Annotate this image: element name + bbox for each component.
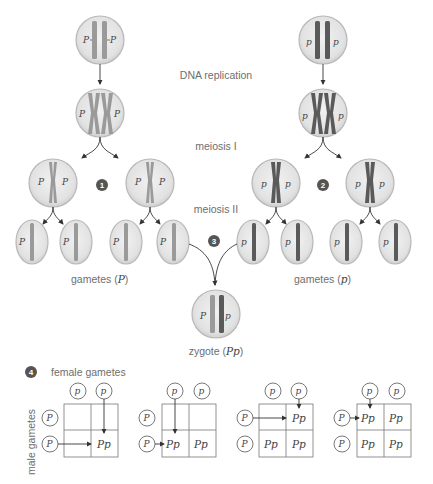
fertilization-arrow [189,244,215,285]
svg-text:p: p [379,179,385,189]
svg-text:p: p [302,111,308,121]
step-badge-4: 4 [25,366,37,378]
arrow-split [276,207,286,224]
punnett-square-1: p p P P Pp [42,383,118,457]
allele-label: P [61,177,69,187]
zygote-label: zygote (Pp) [189,345,244,357]
allele-label: P [78,109,86,119]
meiosis1-cell-P-right: P P [126,159,174,207]
svg-text:Pp: Pp [291,412,306,424]
arrow-split [140,207,150,224]
arrow-split [323,137,341,158]
fertilization-arrow [215,244,237,285]
arrow-split [266,207,276,224]
svg-text:Pp: Pp [360,412,375,424]
dna-replication-label: DNA replication [180,69,253,81]
svg-text:p: p [101,386,107,396]
meiosis-2-label: meiosis II [194,203,238,215]
gamete-p: p [237,220,269,264]
step-badge-3: 3 [208,235,220,247]
allele-label: P [158,177,166,187]
svg-text:p: p [285,237,291,247]
gamete-P: P [110,220,142,264]
svg-text:P: P [241,413,249,423]
svg-text:p: p [306,37,312,47]
allele-label: P [134,177,142,187]
svg-text:P: P [338,413,346,423]
gamete-P: P [60,220,92,264]
meiosis-1-label: meiosis I [195,140,236,152]
meiosis1-cell-p-left: p p [252,159,300,207]
punnett-square-2: p p P P Pp Pp [139,383,216,457]
replicated-cell-p: p p [299,89,347,137]
svg-text:p: p [334,237,340,247]
svg-text:P: P [199,311,207,321]
svg-text:p: p [241,237,247,247]
svg-text:2: 2 [321,181,326,190]
punnett-square-4: p p P P Pp Pp Pp Pp [334,383,411,457]
svg-text:p: p [285,179,291,189]
svg-text:p: p [199,386,205,396]
gamete-P: P [16,220,48,264]
svg-text:p: p [75,386,81,396]
svg-text:Pp: Pp [360,438,375,450]
svg-text:p: p [394,386,400,396]
svg-text:Pp: Pp [193,438,208,450]
svg-text:P: P [143,413,151,423]
zygote-cell: P p [192,290,240,338]
allele-label: P [113,109,121,119]
svg-text:P: P [18,237,26,247]
parent-cell-P: P P [76,16,124,64]
svg-text:p: p [270,386,276,396]
svg-text:3: 3 [212,237,217,246]
meiosis1-cell-P-left: P P [29,159,77,207]
meiosis-diagram: P P P P P P P P 1 P P [0,0,433,484]
svg-text:p: p [172,386,178,396]
parent-cell-p: p p [299,16,347,64]
svg-text:P: P [159,237,167,247]
svg-text:P: P [46,413,54,423]
svg-text:p: p [296,386,302,396]
svg-text:Pp: Pp [388,412,403,424]
replicated-cell-P: P P [76,89,124,137]
arrow-split [305,137,323,158]
svg-text:P: P [338,439,346,449]
svg-text:p: p [338,111,344,121]
svg-text:p: p [225,311,231,321]
arrow-split [100,137,118,158]
svg-text:1: 1 [100,181,105,190]
svg-text:P: P [112,237,120,247]
svg-text:p: p [383,237,389,247]
svg-text:p: p [261,179,267,189]
svg-text:p: p [355,179,361,189]
allele-label: P [37,177,45,187]
svg-text:Pp: Pp [388,438,403,450]
allele-label: P [109,35,117,45]
svg-text:Pp: Pp [291,438,306,450]
svg-text:4: 4 [29,368,34,377]
allele-label: P [82,35,90,45]
arrow-split [43,207,53,224]
svg-text:Pp: Pp [263,438,278,450]
gametes-P-label: gametes (P) [71,273,128,285]
svg-text:p: p [333,37,339,47]
step-badge-2: 2 [317,179,329,191]
male-gametes-label: male gametes [25,409,37,475]
arrow-split [370,207,380,224]
punnett-square-3: p p P P Pp Pp Pp [237,383,313,457]
arrow-split [150,207,160,224]
arrow-split [360,207,370,224]
arrow-split [82,137,100,158]
arrow-split [53,207,63,224]
gamete-P: P [157,220,189,264]
step-badge-1: 1 [96,179,108,191]
meiosis1-cell-p-right: p p [346,159,394,207]
svg-text:p: p [367,386,373,396]
gamete-p: p [281,220,313,264]
svg-text:P: P [46,439,54,449]
svg-text:P: P [143,439,151,449]
svg-text:Pp: Pp [165,438,180,450]
gamete-p: p [379,220,411,264]
gamete-p: p [330,220,362,264]
female-gametes-label: female gametes [51,366,126,378]
